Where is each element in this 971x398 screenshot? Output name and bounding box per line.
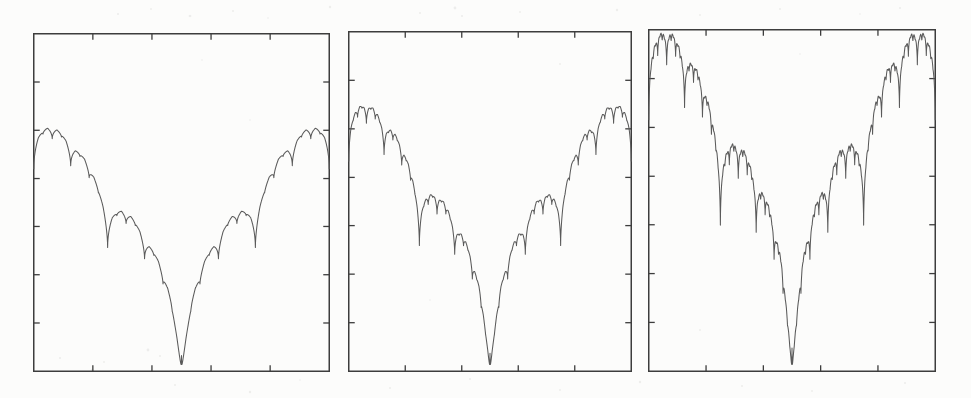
- axis-frame: [349, 32, 632, 372]
- axis-ticks: [349, 32, 632, 372]
- plot-panel-2: [348, 31, 632, 372]
- fractal-curve: [649, 33, 936, 364]
- panel-2-canvas: [348, 31, 632, 372]
- axis-ticks: [34, 34, 330, 372]
- panel-1-axes: [34, 34, 330, 372]
- axis-ticks: [649, 30, 936, 372]
- fractal-curve: [349, 106, 632, 364]
- panel-2-axes: [349, 32, 632, 372]
- fractal-curve: [34, 128, 330, 364]
- plot-panel-1: [33, 33, 330, 372]
- axis-frame: [34, 34, 330, 372]
- plot-panel-3: [648, 29, 936, 372]
- panel-1-canvas: [33, 33, 330, 372]
- figure-root: [0, 0, 971, 398]
- axis-frame: [649, 30, 936, 372]
- panel-3-canvas: [648, 29, 936, 372]
- panel-3-axes: [649, 30, 936, 372]
